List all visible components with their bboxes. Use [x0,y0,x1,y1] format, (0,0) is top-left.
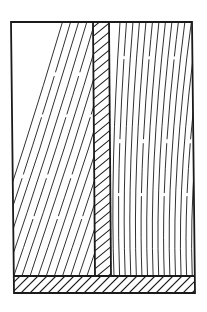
cross-section-figure [0,0,207,312]
base-section-hatching [0,276,207,293]
cross-section-drawing [0,0,207,312]
left-panel-wood-grain [0,22,207,276]
